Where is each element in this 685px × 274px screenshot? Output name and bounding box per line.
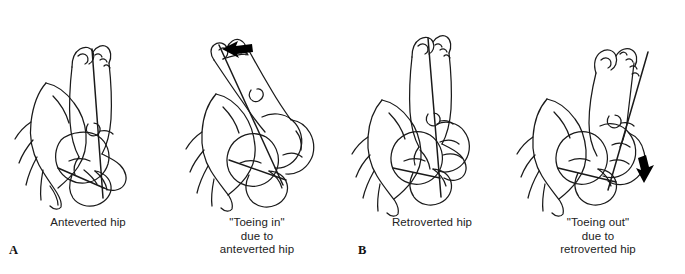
panel-label-b: B	[358, 243, 366, 258]
caption-anteverted-hip: Anteverted hip	[8, 216, 168, 230]
caption-toeing-in: "Toeing in" due to anteverted hip	[176, 216, 338, 257]
caption-toeing-out: "Toeing out" due to retroverted hip	[516, 216, 680, 257]
panel-label-a: A	[9, 243, 18, 258]
caption-retroverted-hip: Retroverted hip	[352, 216, 512, 230]
